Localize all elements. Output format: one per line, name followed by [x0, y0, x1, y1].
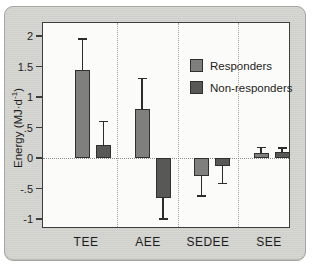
error-bar: [260, 148, 262, 153]
x-axis-category-label: TEE: [56, 235, 116, 249]
y-axis-tick-label: 1: [3, 91, 33, 103]
x-axis-category-label: SEE: [239, 235, 299, 249]
y-axis-tick-label: 1.5: [3, 61, 33, 73]
legend-item-responders: Responders: [190, 59, 292, 72]
y-axis-tick-label: -.5: [3, 183, 33, 195]
error-bar: [141, 79, 143, 110]
error-bar-cap: [99, 121, 108, 123]
error-bar-cap: [138, 78, 147, 80]
y-axis-tick: [36, 66, 42, 68]
y-axis-tick-label: 2: [3, 30, 33, 42]
error-bar-cap: [218, 183, 227, 185]
legend-swatch-responders-icon: [190, 59, 203, 72]
legend: Responders Non-responders: [190, 59, 292, 103]
legend-swatch-non-responders-icon: [190, 81, 203, 94]
plot-area: Responders Non-responders 21.51.50-.5-1T…: [42, 22, 290, 228]
x-axis-category-label: SEDEE: [178, 235, 238, 249]
error-bar-cap: [197, 195, 206, 197]
error-bar: [82, 39, 84, 70]
error-bar-cap: [278, 147, 287, 149]
y-axis-tick-label: .5: [3, 122, 33, 134]
y-axis-tick: [36, 188, 42, 190]
y-axis-tick: [36, 96, 42, 98]
figure: Energy (MJ·d-1) Responders Non-responder…: [0, 0, 314, 269]
bar-non-responders-aee: [156, 158, 171, 198]
bar-responders-see: [254, 153, 269, 158]
category-separator-gridline: [117, 23, 118, 227]
x-axis-category-label: AEE: [118, 235, 178, 249]
error-bar-cap: [78, 38, 87, 40]
error-bar: [201, 176, 203, 196]
error-bar-cap: [257, 147, 266, 149]
bar-responders-sedee: [194, 158, 209, 176]
legend-label-non-responders: Non-responders: [210, 82, 292, 94]
y-axis-tick: [36, 218, 42, 220]
y-axis-tick: [36, 35, 42, 37]
legend-label-responders: Responders: [210, 60, 272, 72]
y-axis-tick-label: 0: [3, 152, 33, 164]
bar-non-responders-sedee: [215, 158, 230, 166]
y-axis-tick: [36, 127, 42, 129]
error-bar: [222, 166, 224, 184]
bar-non-responders-tee: [96, 145, 111, 158]
bar-responders-aee: [135, 109, 150, 158]
category-separator-gridline: [238, 23, 239, 227]
y-axis-tick-label: -1: [3, 213, 33, 225]
bar-non-responders-see: [275, 152, 290, 158]
error-bar: [162, 198, 164, 219]
error-bar-cap: [159, 218, 168, 220]
y-axis-tick: [36, 157, 42, 159]
legend-item-non-responders: Non-responders: [190, 81, 292, 94]
error-bar: [103, 121, 105, 144]
category-separator-gridline: [178, 23, 179, 227]
bar-responders-tee: [75, 70, 90, 158]
